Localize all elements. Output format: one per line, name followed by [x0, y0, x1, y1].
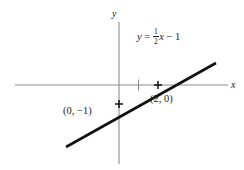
equation-label: y = 1 2 x − 1: [137, 28, 180, 46]
equation-constant: 1: [175, 32, 180, 43]
equation-operator: −: [167, 32, 173, 43]
point-label-x-intercept: (2, 0): [150, 94, 173, 105]
equation-fraction-one-half: 1 2: [153, 28, 159, 46]
equation-variable: x: [159, 32, 164, 43]
fraction-numerator: 1: [153, 28, 159, 36]
x-axis-label: x: [231, 80, 235, 90]
point-marker-x-intercept: [154, 81, 162, 89]
line-graph-figure: y x (0, −1) (2, 0) y = 1 2 x − 1: [0, 0, 244, 170]
equation-equals: =: [144, 32, 150, 43]
equation-lhs: y: [137, 32, 142, 43]
point-label-y-intercept: (0, −1): [63, 106, 92, 117]
fraction-denominator: 2: [153, 38, 159, 46]
point-marker-y-intercept: [115, 100, 123, 108]
y-axis-label: y: [112, 9, 116, 19]
coordinate-plane-svg: [0, 0, 244, 170]
